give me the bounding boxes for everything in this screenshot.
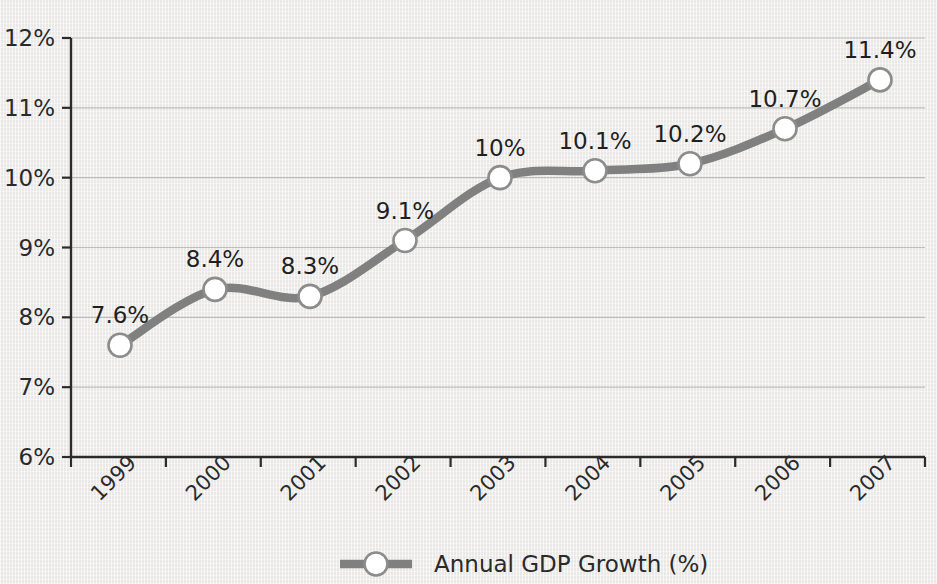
y-axis-labels-group: 6%7%8%9%10%11%12% — [4, 25, 55, 470]
y-axis-tick-label: 7% — [19, 374, 56, 400]
data-point-label: 10.1% — [558, 128, 631, 154]
data-point-marker[interactable] — [869, 68, 892, 91]
data-point-marker[interactable] — [204, 278, 227, 301]
chart-legend: Annual GDP Growth (%) — [340, 551, 708, 577]
y-axis-tick-label: 6% — [19, 444, 56, 470]
x-axis-tick-label: 2003 — [466, 451, 521, 506]
data-point-label: 10.7% — [748, 86, 821, 112]
x-axis-tick-label: 2007 — [845, 451, 900, 506]
series-line-annual-gdp-growth — [120, 80, 880, 345]
data-point-label: 9.1% — [376, 198, 434, 224]
data-point-marker[interactable] — [489, 166, 512, 189]
x-axis-tick-label: 2005 — [655, 451, 710, 506]
data-point-label: 10.2% — [653, 121, 726, 147]
data-point-label: 8.4% — [186, 246, 244, 272]
data-point-marker[interactable] — [109, 334, 132, 357]
y-axis-tick-label: 8% — [19, 304, 56, 330]
data-point-marker[interactable] — [299, 285, 322, 308]
legend-label[interactable]: Annual GDP Growth (%) — [434, 551, 708, 577]
data-point-marker[interactable] — [679, 152, 702, 175]
y-axis-tick-label: 11% — [4, 95, 55, 121]
x-axis-labels-group: 199920002001200220032004200520062007 — [86, 451, 900, 506]
x-axis-tick-label: 1999 — [86, 451, 141, 506]
data-point-marker[interactable] — [774, 117, 797, 140]
y-axis-ticks-group — [62, 38, 71, 457]
data-point-label: 7.6% — [91, 302, 149, 328]
data-point-marker[interactable] — [584, 159, 607, 182]
data-point-label: 10% — [474, 135, 525, 161]
x-axis-tick-label: 2004 — [561, 451, 616, 506]
x-axis-tick-label: 2000 — [181, 451, 236, 506]
x-axis-tick-label: 2001 — [276, 451, 331, 506]
x-axis-tick-label: 2002 — [371, 451, 426, 506]
line-chart: 6%7%8%9%10%11%12% 1999200020012002200320… — [0, 0, 937, 584]
chart-container: 6%7%8%9%10%11%12% 1999200020012002200320… — [0, 0, 937, 584]
y-axis-tick-label: 9% — [19, 235, 56, 261]
data-point-label: 8.3% — [281, 253, 339, 279]
legend-marker-icon — [365, 553, 388, 576]
x-axis-tick-label: 2006 — [750, 451, 805, 506]
data-point-marker[interactable] — [394, 229, 417, 252]
y-axis-tick-label: 10% — [4, 165, 55, 191]
series-group — [120, 80, 880, 345]
y-axis-tick-label: 12% — [4, 25, 55, 51]
data-point-label: 11.4% — [843, 37, 916, 63]
